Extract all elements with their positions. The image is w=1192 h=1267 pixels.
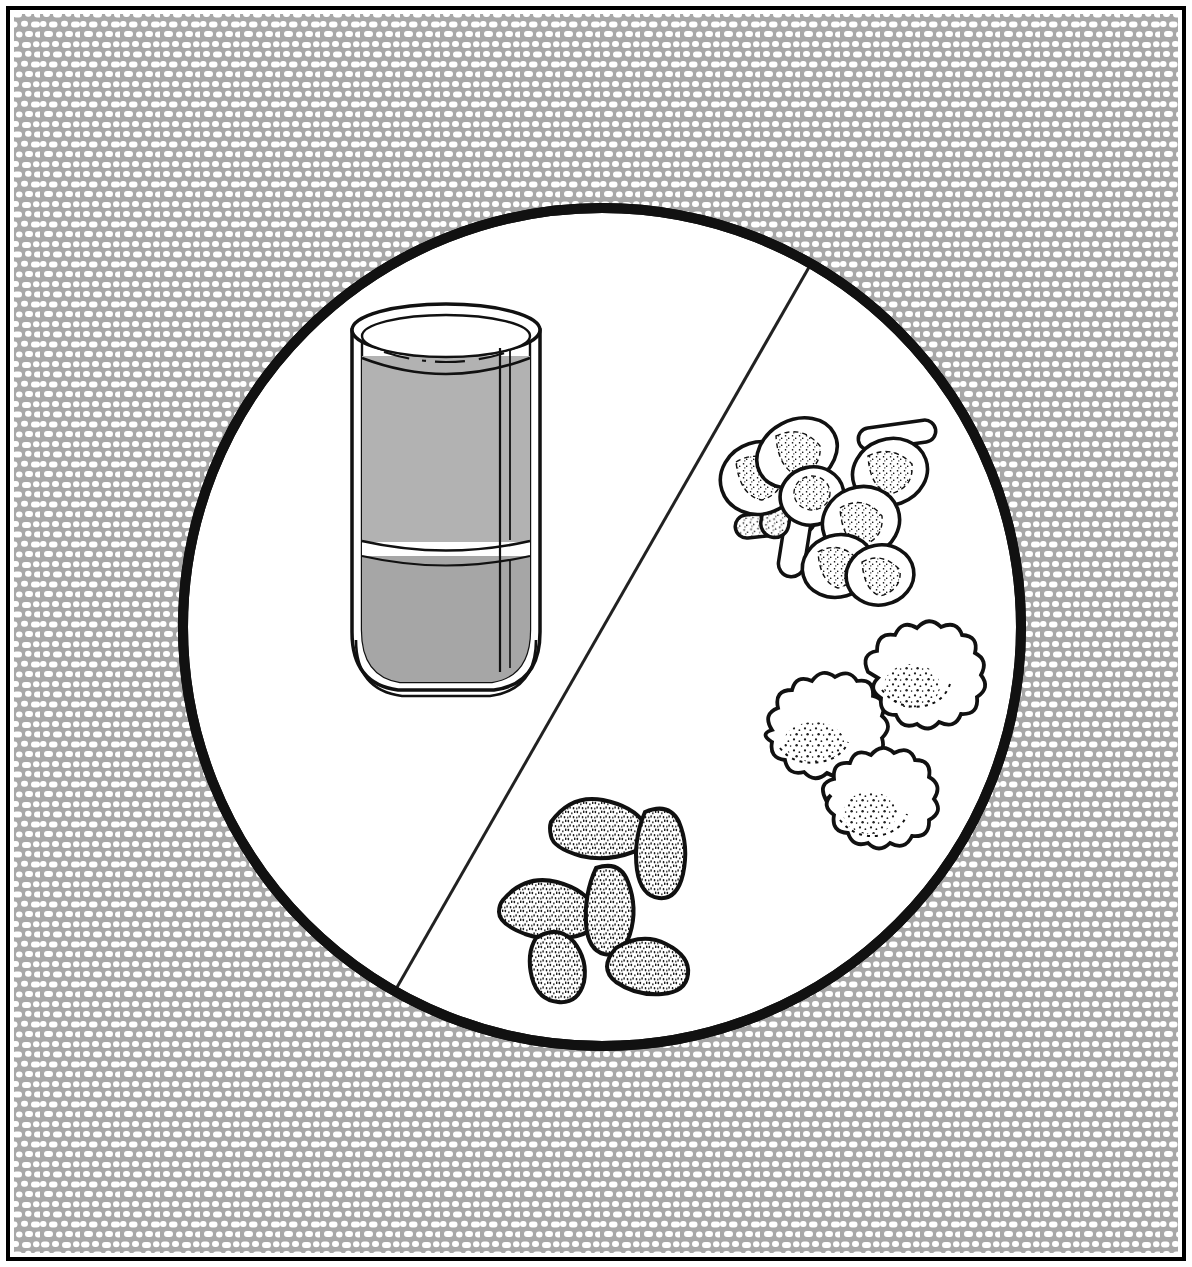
- beaker-rim-inner: [362, 315, 530, 357]
- lower-sediment-layer: [358, 556, 534, 682]
- upper-liquid-layer: [358, 356, 534, 542]
- bean-cell: [530, 932, 585, 1002]
- illustration-canvas: [0, 0, 1192, 1267]
- bean-cell: [636, 809, 685, 898]
- scientific-illustration: [0, 0, 1192, 1267]
- beaker-liquid-layers: [358, 356, 534, 682]
- beaker-illustration: [352, 304, 540, 696]
- crenated-cell: [865, 621, 985, 728]
